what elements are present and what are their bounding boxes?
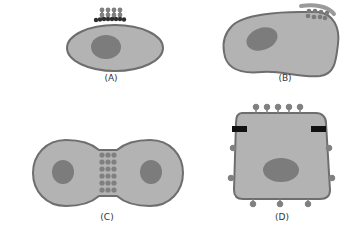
cell-junction-diagram bbox=[0, 0, 354, 240]
panel-b-label: (B) bbox=[278, 73, 291, 83]
panel-c-cells bbox=[33, 140, 183, 206]
panel-d-left-bar bbox=[232, 126, 247, 132]
panel-a-protein-cluster bbox=[100, 8, 123, 18]
panel-d-cell bbox=[228, 104, 335, 207]
panel-a-nucleus bbox=[91, 35, 121, 59]
panel-a-label: (A) bbox=[104, 73, 117, 83]
panel-d-nucleus bbox=[263, 158, 299, 182]
panel-d-label: (D) bbox=[275, 212, 289, 222]
panel-c-left-nucleus bbox=[52, 160, 74, 184]
panel-c-right-nucleus bbox=[140, 160, 162, 184]
panel-a-cell bbox=[67, 8, 163, 71]
panel-a-dark-band bbox=[94, 17, 126, 22]
panel-b-cell bbox=[223, 5, 338, 76]
panel-d-right-bar bbox=[311, 126, 326, 132]
panel-c-label: (C) bbox=[100, 212, 113, 222]
